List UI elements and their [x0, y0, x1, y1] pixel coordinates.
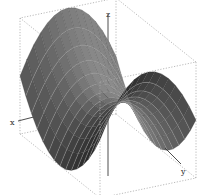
z-axis-label: z — [106, 10, 110, 19]
bounding-box-edge — [116, 0, 196, 62]
axes-front — [165, 148, 181, 164]
y-axis-line-front — [165, 148, 181, 164]
bounding-box-edge — [100, 178, 196, 195]
y-axis-label: y — [180, 167, 186, 176]
x-axis-label: x — [10, 118, 15, 127]
saddle-surface-plot: z x y — [0, 0, 200, 195]
